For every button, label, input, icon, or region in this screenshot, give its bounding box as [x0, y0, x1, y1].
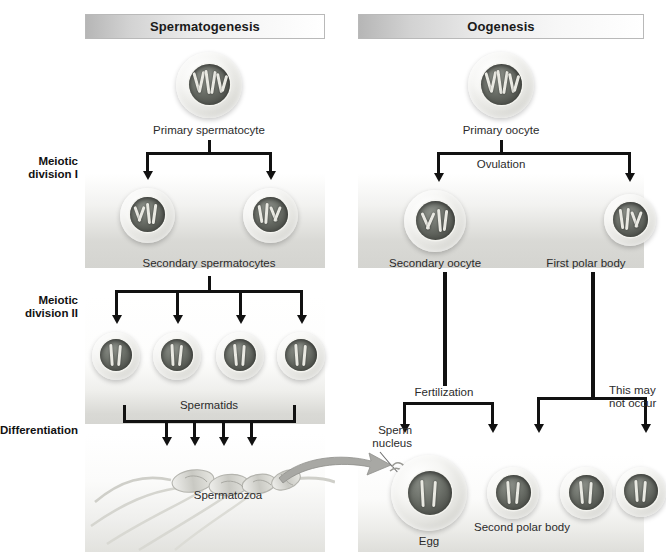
chromosome — [152, 204, 158, 224]
connector-vertical — [146, 152, 149, 172]
chromosome — [579, 481, 584, 504]
connector-horizontal — [146, 152, 272, 155]
connector-vertical — [115, 290, 118, 316]
nucleus — [253, 197, 288, 232]
chromosome — [432, 481, 437, 507]
caption-second-polar-body: Second polar body — [474, 521, 570, 534]
cell-spermatid-2 — [153, 332, 201, 380]
nucleus — [130, 197, 165, 232]
arrow-head — [143, 171, 153, 180]
chromosome — [302, 345, 307, 366]
nucleus — [569, 475, 604, 510]
caption-ovulation: Ovulation — [473, 158, 530, 171]
nucleus — [416, 201, 455, 240]
connector-vertical — [239, 290, 242, 316]
chromosome — [178, 345, 183, 366]
caption-fertilization: Fertilization — [412, 386, 477, 399]
caption-secondary-oocyte: Secondary oocyte — [389, 257, 481, 270]
cell-spermatid-1 — [92, 332, 140, 380]
chromosome — [257, 205, 263, 223]
chromosome — [642, 481, 647, 502]
arrow-head — [434, 173, 444, 182]
cell-second-polar-body-2 — [560, 467, 612, 519]
arrow-head — [625, 173, 635, 182]
connector-vertical — [437, 152, 440, 174]
header-spermatogenesis-label: Spermatogenesis — [150, 19, 260, 34]
cell-primary-oocyte — [468, 52, 534, 118]
connector-vertical — [269, 152, 272, 172]
stage-label-meiotic-division-2: Meiotic division II — [0, 294, 78, 320]
nucleus — [100, 339, 132, 371]
nucleus — [613, 202, 648, 237]
caption-may-not-occur-line2: not occur — [609, 397, 656, 410]
connector-vertical — [537, 397, 540, 425]
chromosome — [170, 344, 174, 366]
cell-spermatid-3 — [216, 332, 264, 380]
chromosome — [513, 75, 521, 92]
cell-spermatid-4 — [277, 332, 325, 380]
cell-secondary-spermatocyte-2 — [243, 188, 298, 243]
connector-horizontal — [437, 152, 631, 155]
connector-vertical — [300, 290, 303, 316]
nucleus — [161, 339, 193, 371]
connector-horizontal — [115, 290, 303, 293]
cell-first-polar-body — [604, 194, 656, 246]
chromosome — [515, 482, 520, 504]
nucleus — [224, 339, 256, 371]
chromosome — [294, 344, 299, 366]
arrow-head — [641, 424, 651, 433]
chromosome — [146, 203, 151, 224]
connector-vertical — [193, 420, 196, 438]
caption-primary-oocyte: Primary oocyte — [463, 124, 540, 137]
chromosome — [625, 208, 630, 230]
connector-vertical — [403, 402, 406, 425]
caption-primary-spermatocyte: Primary spermatocyte — [153, 124, 265, 137]
connector-vertical — [165, 420, 168, 438]
chromosome — [117, 345, 122, 366]
stage-label-meiotic-division-1-line2: division I — [0, 168, 78, 181]
diagram-canvas: Spermatogenesis Oogenesis Meiotic divisi… — [0, 0, 666, 558]
stage-label-differentiation: Differentiation — [0, 424, 78, 437]
cell-secondary-spermatocyte-1 — [120, 188, 175, 243]
caption-may-not-occur: This may not occur — [609, 384, 656, 410]
nucleus — [624, 474, 658, 508]
chromosome — [233, 344, 238, 366]
connector-vertical — [250, 420, 253, 438]
stage-label-meiotic-division-1: Meiotic division I — [0, 155, 78, 181]
arrow-head — [534, 424, 544, 433]
caption-secondary-spermatocytes: Secondary spermatocytes — [143, 257, 276, 270]
arrow-head — [173, 315, 183, 324]
chromosome — [109, 344, 114, 366]
connector-horizontal — [123, 420, 296, 423]
caption-sperm-nucleus: Sperm nucleus — [360, 424, 412, 450]
connector-vertical-long-polar — [591, 272, 595, 398]
cell-egg — [391, 455, 467, 531]
connector-horizontal — [403, 402, 494, 405]
chromosome — [619, 209, 625, 229]
cell-primary-spermatocyte — [176, 52, 242, 118]
chromosome — [634, 480, 639, 502]
caption-egg: Egg — [419, 535, 439, 548]
nucleus — [408, 471, 452, 515]
connector-vertical-long-oocyte — [443, 272, 447, 386]
arrow-head — [488, 424, 498, 433]
nucleus — [481, 64, 522, 105]
caption-spermatozoa: Spermatozoa — [194, 489, 262, 502]
chromosome — [264, 203, 268, 224]
nucleus — [189, 64, 230, 105]
nucleus — [285, 339, 317, 371]
caption-sperm-nucleus-line1: Sperm — [360, 424, 412, 437]
stage-label-differentiation-line1: Differentiation — [0, 424, 78, 437]
chromosome — [588, 482, 593, 504]
header-spermatogenesis: Spermatogenesis — [85, 14, 325, 39]
chromosome — [221, 75, 229, 92]
nucleus — [496, 475, 531, 510]
stage-label-meiotic-division-2-line2: division II — [0, 307, 78, 320]
arrow-head — [297, 315, 307, 324]
caption-sperm-nucleus-line2: nucleus — [360, 437, 412, 450]
caption-first-polar-body: First polar body — [546, 257, 625, 270]
arrow-head — [266, 171, 276, 180]
chromosome — [420, 480, 425, 507]
connector-vertical — [628, 152, 631, 174]
chromosome — [241, 345, 245, 366]
